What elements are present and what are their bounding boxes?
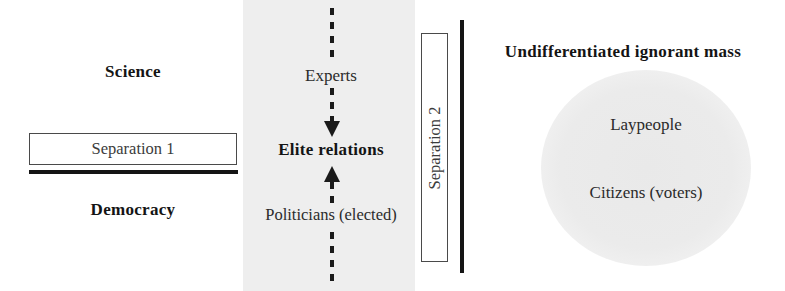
dashed-line-politicians-to-elite-segment — [330, 182, 334, 206]
separation-1-label: Separation 1 — [92, 139, 175, 159]
dashed-line-bottom-segment — [330, 232, 334, 284]
democracy-label: Democracy — [43, 200, 223, 220]
undifferentiated-mass-heading: Undifferentiated ignorant mass — [470, 42, 776, 62]
citizens-voters-label: Citizens (voters) — [546, 183, 746, 203]
laypeople-label: Laypeople — [556, 115, 736, 135]
arrowhead-up-icon — [324, 166, 340, 182]
separation-2-box: Separation 2 — [421, 33, 448, 262]
dashed-line-experts-to-elite-segment — [330, 88, 334, 121]
separation-1-divider-line — [29, 170, 238, 174]
separation-1-box: Separation 1 — [29, 133, 237, 165]
mass-blob-shape — [541, 70, 751, 266]
arrowhead-down-icon — [324, 121, 340, 137]
separation-2-label: Separation 2 — [425, 106, 445, 189]
elite-relations-label: Elite relations — [253, 140, 409, 160]
dashed-line-top-segment — [330, 8, 334, 60]
separation-2-divider-line — [460, 20, 464, 273]
science-label: Science — [43, 62, 223, 82]
experts-label: Experts — [253, 66, 409, 86]
politicians-elected-label: Politicians (elected) — [243, 205, 419, 225]
diagram-canvas: Science Separation 1 Democracy Experts E… — [0, 0, 785, 291]
